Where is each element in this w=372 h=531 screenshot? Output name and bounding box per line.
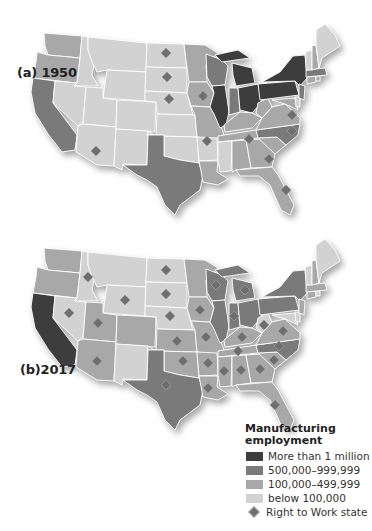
map-1950-panel: (a) 1950 (0, 0, 372, 215)
legend-label: More than 1 million (268, 450, 370, 462)
state-nm (114, 129, 148, 170)
state-ny (262, 270, 308, 301)
legend-label: 100,000–499,999 (268, 478, 360, 490)
state-me (316, 24, 340, 68)
legend-label: Right to Work state (266, 506, 367, 518)
state-nj (299, 299, 305, 315)
panel-label-2017: (b)2017 (20, 362, 76, 377)
map-1950 (0, 0, 372, 215)
swatch-100k-499k (246, 480, 263, 489)
state-me (316, 239, 340, 283)
state-ms (218, 141, 232, 172)
state-mt (88, 37, 147, 72)
swatch-below-100k (246, 494, 263, 503)
legend-item-more-than-1m: More than 1 million (245, 449, 372, 463)
state-wa (44, 248, 82, 273)
legend-label: below 100,000 (268, 492, 346, 504)
legend-item-100k-499k: 100,000–499,999 (245, 477, 372, 491)
state-pa (258, 296, 299, 315)
state-pa (258, 81, 299, 100)
state-wy (103, 70, 146, 101)
swatch-500k-999k (246, 466, 263, 475)
map-2017 (0, 215, 372, 430)
state-vt (305, 265, 312, 285)
state-nj (299, 84, 305, 100)
state-ri (316, 291, 320, 296)
state-mt (88, 252, 147, 287)
panel-label-1950: (a) 1950 (17, 65, 77, 80)
legend-item-right-to-work: Right to Work state (245, 505, 372, 519)
legend-item-500k-999k: 500,000–999,999 (245, 463, 372, 477)
legend-title-line2: employment (245, 435, 372, 447)
state-wa (44, 33, 82, 58)
diamond-marker-icon (248, 506, 259, 517)
legend: Manufacturing employment More than 1 mil… (245, 423, 372, 519)
swatch-more-than-1m (246, 452, 263, 461)
state-az (76, 124, 116, 166)
legend-label: 500,000–999,999 (268, 464, 360, 476)
state-ks (156, 114, 197, 137)
map-2017-panel: (b)2017 (0, 215, 372, 430)
state-ny (262, 55, 308, 86)
state-ri (316, 76, 320, 81)
state-vt (305, 50, 312, 70)
state-co (116, 315, 156, 347)
state-nm (114, 344, 148, 385)
legend-item-below-100k: below 100,000 (245, 491, 372, 505)
state-co (116, 100, 156, 132)
